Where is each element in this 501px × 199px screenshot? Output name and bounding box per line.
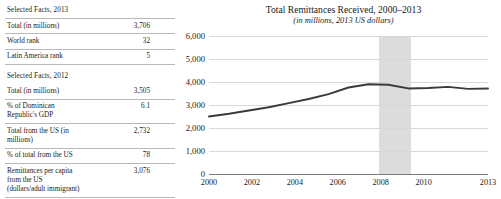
- chart-title-block: Total Remittances Received, 2000–2013 (i…: [186, 4, 501, 27]
- fact-value: 3,076: [86, 164, 175, 198]
- fact-label: Total (in millions): [5, 19, 86, 34]
- facts-section-2-heading: Selected Facts, 2012: [5, 65, 175, 84]
- x-tick-label: 2013: [480, 178, 496, 187]
- facts-section-1-heading: Selected Facts, 2013: [5, 6, 175, 18]
- fact-label: World rank: [5, 34, 86, 49]
- facts-table-2012: Total (in millions) 3,505 % of Dominican…: [5, 84, 175, 198]
- x-tick-label: 2000: [201, 178, 217, 187]
- table-row: Total (in millions) 3,706: [5, 19, 175, 34]
- fact-label: Latin America rank: [5, 49, 86, 64]
- fact-label-line: from the US: [7, 176, 86, 185]
- table-row: World rank 32: [5, 34, 175, 49]
- y-tick-label: 6,000: [186, 31, 205, 41]
- fact-value: 32: [86, 34, 175, 49]
- plot-area: [209, 36, 488, 174]
- remittances-line-chart: Total Remittances Received, 2000–2013 (i…: [186, 0, 501, 199]
- fact-value: 6.1: [86, 99, 175, 124]
- x-tick-label: 2008: [373, 178, 389, 187]
- x-tick-label: 2002: [244, 178, 260, 187]
- series-line: [209, 36, 488, 174]
- fact-label: Total from the US (in millions): [5, 124, 86, 149]
- y-axis-tick-labels: 6,0005,0004,0003,0002,0001,0000: [186, 0, 205, 199]
- y-tick-label: 3,000: [186, 100, 205, 110]
- fact-label: % of total from the US: [5, 148, 86, 163]
- y-tick-label: 5,000: [186, 54, 205, 64]
- selected-facts-panel: Selected Facts, 2013 Total (in millions)…: [5, 6, 175, 198]
- chart-subtitle: (in millions, 2013 US dollars): [186, 16, 501, 27]
- table-row: Latin America rank 5: [5, 49, 175, 64]
- fact-value: 78: [86, 148, 175, 163]
- table-row: Total from the US (in millions) 2,732: [5, 124, 175, 149]
- fact-label: Total (in millions): [5, 84, 86, 99]
- x-tick-label: 2006: [330, 178, 346, 187]
- table-row: % of total from the US 78: [5, 148, 175, 163]
- fact-label-line: (dollars/adult immigrant): [7, 185, 86, 194]
- x-tick-label: 2004: [287, 178, 303, 187]
- table-row: % of Dominican Republic's GDP 6.1: [5, 99, 175, 124]
- chart-title: Total Remittances Received, 2000–2013: [186, 4, 501, 16]
- fact-label-multiline: Remittances per capita from the US (doll…: [5, 164, 86, 198]
- fact-label: % of Dominican Republic's GDP: [5, 99, 86, 124]
- y-tick-label: 2,000: [186, 123, 205, 133]
- y-tick-label: 1,000: [186, 146, 205, 156]
- x-tick-label: 2010: [415, 178, 431, 187]
- facts-table-2013: Total (in millions) 3,706 World rank 32 …: [5, 18, 175, 65]
- fact-value: 5: [86, 49, 175, 64]
- table-row: Total (in millions) 3,505: [5, 84, 175, 99]
- fact-value: 3,706: [86, 19, 175, 34]
- fact-value: 3,505: [86, 84, 175, 99]
- table-row: Remittances per capita from the US (doll…: [5, 164, 175, 198]
- fact-value: 2,732: [86, 124, 175, 149]
- fact-label-line: Remittances per capita: [7, 167, 86, 176]
- x-axis-line: [209, 174, 488, 175]
- y-tick-label: 4,000: [186, 77, 205, 87]
